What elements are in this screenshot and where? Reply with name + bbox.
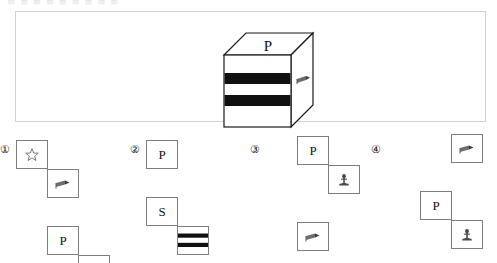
option-2-label: ② xyxy=(130,144,140,155)
option-1-cell-p-text: P xyxy=(59,234,66,247)
option-4[interactable]: ④PS xyxy=(0,132,32,263)
horizontal-stripes xyxy=(178,227,208,254)
flag-icon xyxy=(305,229,321,245)
option-4-cell-anchor[interactable] xyxy=(451,220,483,249)
option-2-cell-stripes[interactable] xyxy=(177,226,209,255)
anchor-icon xyxy=(459,227,475,243)
cube-front-stripe-2 xyxy=(225,95,291,106)
option-1-cell-p[interactable]: P xyxy=(47,226,79,255)
flag-icon xyxy=(459,141,475,157)
option-4-cell-p-text: P xyxy=(432,199,439,212)
puzzle-page: ▒ ▒ ▒ ▒ ▒ ▒ ▒ ▒ ▒ P xyxy=(0,0,497,263)
option-3-cell-p-text: P xyxy=(309,144,316,157)
option-2-cell-s[interactable]: S xyxy=(146,197,178,226)
option-3-label: ③ xyxy=(250,144,260,155)
option-3-cell-anchor[interactable] xyxy=(328,165,360,194)
option-1-cell-s[interactable]: S xyxy=(78,255,110,263)
option-4-label: ④ xyxy=(371,144,381,155)
option-4-cell-p[interactable]: P xyxy=(420,191,452,220)
flag-icon xyxy=(55,176,71,192)
top-cutoff-text: ▒ ▒ ▒ ▒ ▒ ▒ ▒ ▒ ▒ xyxy=(8,0,308,5)
question-panel: P xyxy=(15,11,486,122)
cube-front-stripe-1 xyxy=(225,73,291,84)
option-3-cell-flag[interactable] xyxy=(297,222,329,251)
option-4-cell-flag[interactable] xyxy=(451,134,483,163)
option-2-cell-p-text: P xyxy=(158,148,165,161)
option-2-cell-p[interactable]: P xyxy=(146,140,178,169)
option-3-cell-p[interactable]: P xyxy=(297,136,329,165)
anchor-icon xyxy=(336,172,352,188)
cube-svg: P xyxy=(219,25,319,132)
option-2-cell-s-text: S xyxy=(158,205,165,218)
cube-front-face xyxy=(224,55,291,127)
options-row: ①PS②PS③PS④PS xyxy=(0,132,497,263)
cube-top-label: P xyxy=(264,38,272,54)
cube-figure: P xyxy=(219,25,319,132)
option-1-cell-flag[interactable] xyxy=(47,169,79,198)
